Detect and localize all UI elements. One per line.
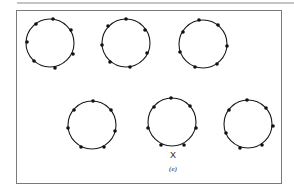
figure-canvas xyxy=(0,0,294,190)
ring-3 xyxy=(178,18,229,69)
ring-2 xyxy=(100,17,150,69)
ring-5 xyxy=(146,96,198,147)
x-marker-label: X xyxy=(163,150,183,160)
ring-1 xyxy=(25,17,75,70)
ring-6 xyxy=(224,98,275,150)
panel-caption: (e) xyxy=(160,165,186,173)
ring-4 xyxy=(66,99,117,149)
